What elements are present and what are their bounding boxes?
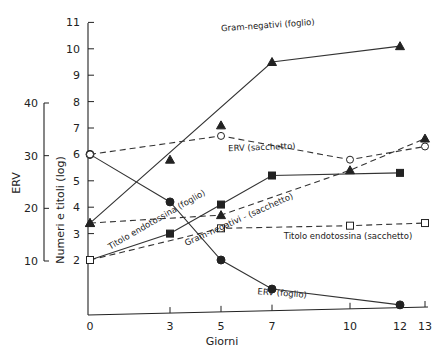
series-label: ERV (foglio) [257,286,307,299]
y-tick-label: 6 [73,148,80,161]
series-label: ERV (sacchetto) [228,141,296,153]
x-tick-label: 0 [87,320,94,333]
filled-triangle-marker [217,211,226,219]
series-label: Titolo endotossina (sacchetto) [283,231,412,241]
filled-square-marker [167,230,174,237]
filled-triangle-marker [396,42,405,50]
axes: 234567891011102030400357101213GiorniNume… [10,16,432,348]
x-tick-label: 13 [418,320,432,333]
x-tick-label: 7 [269,320,276,333]
open-square-marker [347,222,354,229]
x-axis-label: Giorni [206,335,239,348]
x-tick-label: 3 [167,320,174,333]
filled-triangle-marker [421,134,430,142]
x-tick-label: 12 [393,320,407,333]
filled-circle-marker [396,301,404,309]
open-circle-marker [422,143,429,150]
y-tick-label: 11 [66,16,80,29]
series-lines [90,46,425,305]
y-tick-label: 10 [66,43,80,56]
series-line [90,46,400,223]
open-circle-marker [347,156,354,163]
y-tick-label: 3 [73,228,80,241]
y-tick-label: 5 [73,175,80,188]
open-circle-marker [218,132,225,139]
y-tick-label: 7 [73,122,80,135]
y2-axis-label: ERV [10,172,23,194]
y-tick-label: 4 [73,201,80,214]
y2-tick-label: 10 [24,255,38,268]
series-label: Gram-negativi (foglio) [221,17,315,34]
open-square-marker [422,220,429,227]
y2-tick-label: 30 [24,150,38,163]
series-labels: Gram-negativi (foglio)ERV (sacchetto)Tit… [105,17,412,300]
y2-tick-label: 20 [24,202,38,215]
filled-triangle-marker [166,155,175,163]
x-tick-label: 5 [218,320,225,333]
x-axis [88,307,428,315]
open-circle-marker [87,151,94,158]
y2-tick-label: 40 [24,97,38,110]
filled-square-marker [269,172,276,179]
line-chart: 234567891011102030400357101213GiorniNume… [0,0,443,353]
series-markers [86,42,430,309]
filled-square-marker [397,169,404,176]
y-tick-label: 8 [73,96,80,109]
open-square-marker [87,257,94,264]
filled-triangle-marker [217,121,226,129]
filled-circle-marker [217,256,225,264]
x-tick-label: 10 [343,320,357,333]
y-axis-label: Numeri e titoli (log) [54,156,67,263]
filled-triangle-marker [346,166,355,174]
y-tick-label: 2 [73,254,80,267]
filled-square-marker [218,201,225,208]
y-tick-label: 9 [73,69,80,82]
